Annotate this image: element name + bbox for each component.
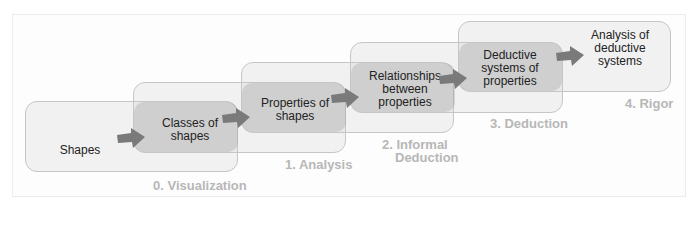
content-classes-of-shapes: Classes of shapes [150,117,230,143]
text-line: systems [580,55,660,68]
arrow-icon [556,46,584,66]
arrow-icon [331,88,359,108]
level-label-deduction: 3. Deduction [490,116,568,131]
text-line: shapes [150,130,230,143]
text-line: properties [470,75,550,88]
content-analysis-of-deductive-systems: Analysis of deductive systems [580,29,660,68]
level-label-rigor: 4. Rigor [625,96,673,111]
arrow-icon [222,108,250,128]
level-label-analysis: 1. Analysis [285,157,352,172]
content-shapes: Shapes [50,144,110,157]
content-properties-of-shapes: Properties of shapes [251,97,339,123]
text-line: properties [360,96,450,109]
text-line: shapes [251,110,339,123]
content-relationships-between-properties: Relationships between properties [360,70,450,109]
arrow-icon [117,128,145,148]
arrow-icon [439,69,467,89]
text-line: Shapes [60,143,101,157]
content-deductive-systems-of-properties: Deductive systems of properties [470,49,550,88]
level-label-informal-deduction-2: Deduction [395,150,459,165]
level-label-visualization: 0. Visualization [153,178,247,193]
